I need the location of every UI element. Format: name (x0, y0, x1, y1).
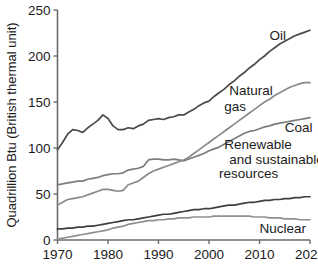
nuclear-label: Nuclear (260, 221, 307, 236)
natural-gas-label-2: gas (224, 99, 246, 114)
renewable-label-3: resources (219, 166, 279, 181)
renewable-label-2: and sustainable (229, 152, 318, 167)
y-axis-title-text: Quadrillion Btu (British thermal unit) (4, 22, 19, 227)
y-tick-label: 50 (35, 187, 50, 202)
chart-canvas: 050100150200250197019801990200020102020 … (0, 0, 318, 273)
renewable-label-1: Renewable (224, 137, 292, 152)
x-tick-label: 2000 (194, 247, 224, 262)
coal-label: Coal (285, 120, 313, 135)
natural-gas-label: Natural (229, 83, 273, 98)
y-tick-label: 100 (28, 141, 51, 156)
y-tick-label: 0 (43, 233, 51, 248)
y-tick-label: 150 (28, 95, 51, 110)
oil-label: Oil (270, 28, 287, 43)
x-tick-label: 2010 (244, 247, 274, 262)
x-tick-label: 1980 (93, 247, 123, 262)
x-tick-label: 2020 (295, 247, 318, 262)
y-tick-label: 200 (28, 49, 51, 64)
energy-consumption-chart: 050100150200250197019801990200020102020 … (0, 0, 318, 273)
series-lines (58, 30, 311, 239)
y-axis-title: Quadrillion Btu (British thermal unit) (4, 22, 19, 227)
x-tick-label: 1970 (42, 247, 72, 262)
y-tick-label: 250 (28, 3, 51, 18)
x-tick-label: 1990 (143, 247, 173, 262)
